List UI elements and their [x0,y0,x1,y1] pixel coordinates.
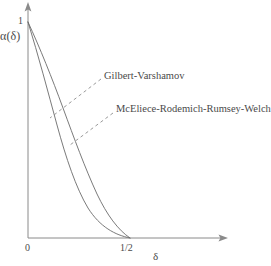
plot-canvas [0,0,271,266]
annotation-label-gilbert-varshamov: Gilbert-Varshamov [104,71,184,82]
curve-mceliece-rodemich-rumsey-welch [28,22,130,238]
figure-root: α(δ) 1 0 1/2 δ Gilbert-Varshamov McEliec… [0,0,271,266]
x-tick-label-0: 0 [25,243,30,253]
x-tick-label-half: 1/2 [120,243,133,253]
y-axis-label: α(δ) [0,30,20,42]
leader-line-mceliece-rodemich-rumsey-welch [70,113,113,145]
x-axis-label: δ [153,251,158,262]
leader-line-gilbert-varshamov [50,79,101,118]
curve-gilbert-varshamov [28,22,130,238]
y-tick-label-1: 1 [18,16,23,26]
annotation-label-mceliece-rodemich-rumsey-welch: McEliece-Rodemich-Rumsey-Welch [116,104,271,115]
